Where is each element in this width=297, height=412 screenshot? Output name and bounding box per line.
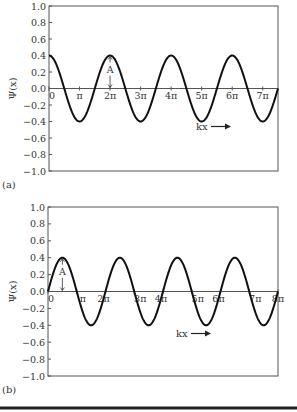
arrow-right-icon (205, 331, 211, 337)
panel-b: 1.00.80.60.40.20.0−0.2−0.4−0.6−0.8−1.00π… (2, 202, 284, 396)
y-tick-label: 0.0 (31, 83, 46, 94)
x-tick-label: 7π (257, 90, 269, 101)
amplitude-label: A (106, 64, 114, 75)
y-tick-label: 0.2 (30, 269, 45, 280)
y-tick-label: 1.0 (30, 202, 45, 213)
y-tick-label: −0.8 (22, 354, 45, 365)
x-tick-label: 0 (49, 90, 55, 101)
panel-label: (b) (2, 384, 16, 395)
x-tick-label: 0 (48, 293, 54, 304)
figure: 1.00.80.60.40.20.0−0.2−0.4−0.6−0.8−1.00π… (0, 0, 297, 412)
x-axis-label: kx (176, 328, 188, 339)
y-axis-label: Ψ(x) (7, 280, 18, 302)
y-axis-label: Ψ(x) (7, 77, 18, 99)
x-tick-label: 2π (104, 90, 116, 101)
panel-a: 1.00.80.60.40.20.0−0.2−0.4−0.6−0.8−1.00π… (2, 1, 278, 191)
x-tick-label: π (76, 90, 82, 101)
y-tick-label: −0.4 (23, 116, 46, 127)
y-tick-label: −1.0 (22, 371, 45, 382)
y-tick-label: −0.4 (22, 320, 45, 331)
y-tick-label: −0.2 (22, 303, 45, 314)
y-tick-label: −0.6 (22, 337, 45, 348)
y-tick-label: 0.8 (31, 17, 46, 28)
y-tick-label: 0.0 (30, 286, 45, 297)
y-tick-label: −0.2 (23, 100, 46, 111)
y-tick-label: 0.8 (30, 218, 45, 229)
y-tick-label: 0.6 (31, 34, 46, 45)
y-tick-label: −0.6 (23, 133, 46, 144)
x-tick-label: 3π (134, 90, 146, 101)
panel-label: (a) (2, 179, 16, 190)
x-tick-label: 6π (226, 90, 238, 101)
y-tick-label: 0.4 (31, 50, 46, 61)
x-tick-label: 5π (196, 90, 208, 101)
y-tick-label: −1.0 (23, 166, 46, 177)
arrow-right-icon (225, 124, 231, 130)
y-tick-label: −0.8 (23, 149, 46, 160)
y-tick-label: 1.0 (31, 1, 46, 12)
y-tick-label: 0.4 (30, 252, 45, 263)
x-axis-label: kx (196, 121, 208, 132)
y-tick-label: 0.2 (31, 67, 46, 78)
x-tick-label: 4π (165, 90, 177, 101)
y-tick-label: 0.6 (30, 235, 45, 246)
amplitude-label: A (58, 266, 66, 277)
